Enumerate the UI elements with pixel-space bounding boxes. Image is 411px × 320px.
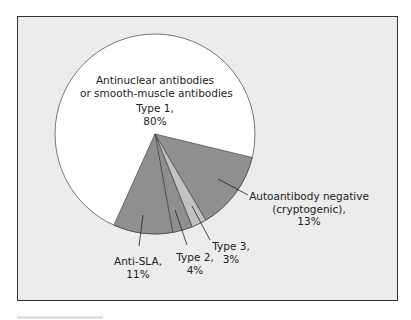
label-autoneg-line1: Autoantibody negative	[244, 190, 374, 203]
label-type1-line4: 80%	[80, 115, 230, 128]
label-autoneg-line3: 13%	[244, 215, 374, 228]
label-type1-line1: Antinuclear antibodies	[80, 74, 230, 87]
label-type2-line2: 4%	[172, 264, 218, 277]
label-antisla-line1: Anti-SLA,	[110, 255, 166, 268]
label-anti-sla: Anti-SLA, 11%	[110, 255, 166, 280]
label-autoantibody-negative: Autoantibody negative (cryptogenic), 13%	[244, 190, 374, 228]
label-autoneg-line2: (cryptogenic),	[244, 203, 374, 216]
label-type1-line3: Type 1,	[80, 102, 230, 115]
label-type2: Type 2, 4%	[172, 251, 218, 276]
label-type1: Antinuclear antibodies or smooth-muscle …	[80, 74, 230, 127]
label-antisla-line2: 11%	[110, 268, 166, 281]
label-type2-line1: Type 2,	[172, 251, 218, 264]
label-type1-line2: or smooth-muscle antibodies	[80, 87, 230, 100]
